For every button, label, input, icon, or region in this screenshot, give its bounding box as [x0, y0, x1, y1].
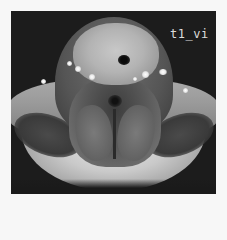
sequence-label: t1_vi — [170, 27, 209, 41]
vessel-bright-spot — [75, 66, 81, 72]
vessel-bright-spot — [133, 77, 137, 81]
vessel-bright-spot — [67, 61, 72, 66]
vessel-bright-spot — [159, 69, 167, 75]
spinal-canal — [108, 95, 122, 107]
posterior-midline — [113, 109, 116, 159]
vessel-bright-spot — [89, 74, 95, 80]
vessel-bright-spot — [41, 79, 46, 84]
vessel-bright-spot — [183, 88, 188, 93]
vessel-bright-spot — [142, 71, 149, 78]
trachea-lumen — [118, 55, 130, 65]
scan-bottom-shadow — [11, 179, 216, 194]
